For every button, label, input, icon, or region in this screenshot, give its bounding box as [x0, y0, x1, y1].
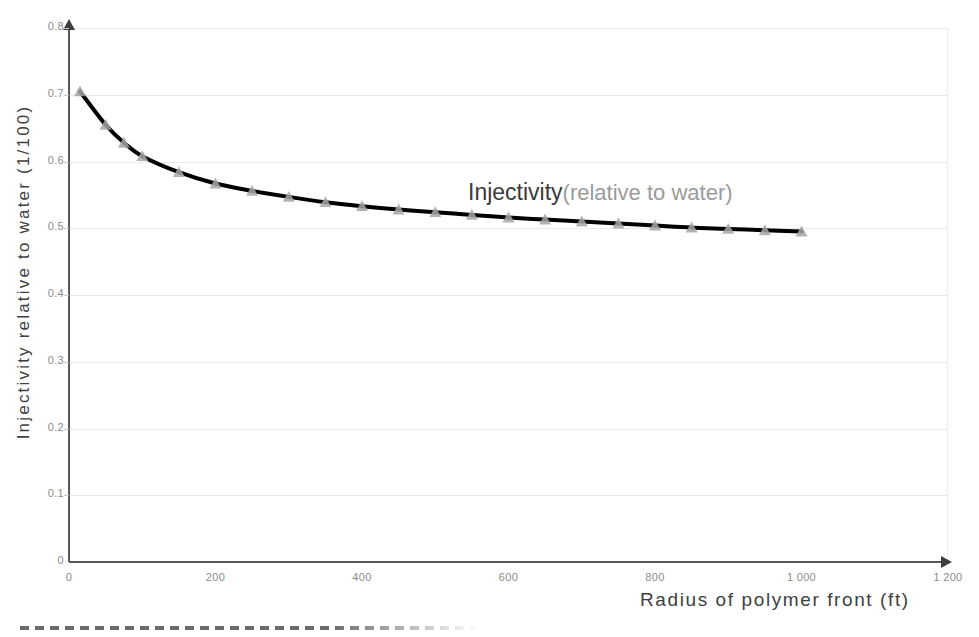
- series-annotation-main: Injectivity: [468, 179, 563, 205]
- series-injectivity: [74, 85, 808, 236]
- chart-figure: 00.10.20.30.40.50.60.70.8 Injectivity re…: [0, 0, 979, 637]
- series-line: [80, 91, 802, 231]
- series-annotation: Injectivity(relative to water): [468, 179, 733, 206]
- series-annotation-sub: (relative to water): [563, 180, 733, 205]
- bottom-dashed-rule-fade: [330, 626, 495, 630]
- data-series-layer: [0, 0, 979, 637]
- data-point-marker: [74, 85, 86, 96]
